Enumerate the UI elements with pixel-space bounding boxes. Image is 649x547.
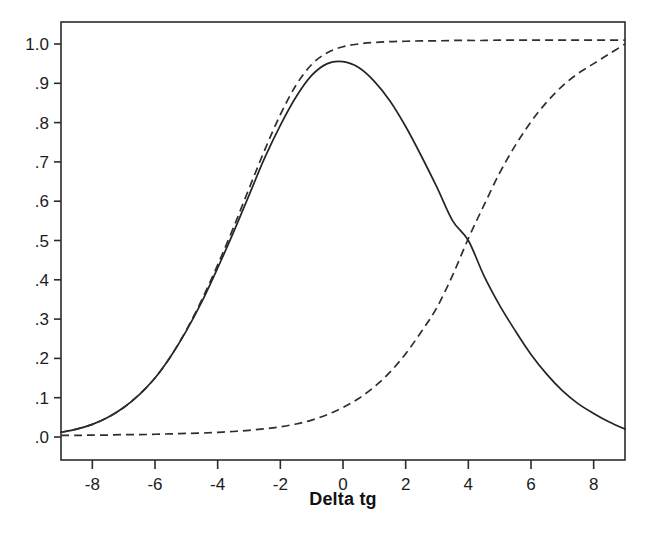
y-tick-label: .0 bbox=[35, 428, 49, 447]
plot-frame bbox=[61, 22, 625, 460]
chart-figure: 1.0.9.8.7.6.5.4.3.2.1.0 -8-6-4-202468 De… bbox=[0, 0, 649, 547]
y-tick-label: .8 bbox=[35, 114, 49, 133]
series-solid-bell-curve bbox=[61, 61, 625, 432]
data-series-group bbox=[61, 40, 625, 435]
x-tick-label: -6 bbox=[147, 475, 162, 494]
y-tick-label: .1 bbox=[35, 389, 49, 408]
x-axis-title: Delta tg bbox=[309, 489, 377, 509]
y-tick-label: .4 bbox=[35, 271, 49, 290]
x-tick-label: -4 bbox=[210, 475, 225, 494]
axis-ticks bbox=[54, 44, 594, 469]
y-tick-label: 1.0 bbox=[25, 35, 49, 54]
series-dashed-rising-sigmoid-curve bbox=[61, 44, 625, 435]
y-tick-label: .5 bbox=[35, 232, 49, 251]
y-tick-label: .3 bbox=[35, 310, 49, 329]
y-tick-label: .9 bbox=[35, 74, 49, 93]
x-tick-label: 2 bbox=[401, 475, 410, 494]
y-tick-label: .6 bbox=[35, 192, 49, 211]
x-tick-label: -2 bbox=[273, 475, 288, 494]
series-dashed-upper-plateau-curve bbox=[61, 40, 625, 432]
x-tick-label: -8 bbox=[85, 475, 100, 494]
x-tick-label: 4 bbox=[464, 475, 473, 494]
x-tick-label: 8 bbox=[589, 475, 598, 494]
y-tick-label: .2 bbox=[35, 349, 49, 368]
x-tick-label: 6 bbox=[526, 475, 535, 494]
chart-canvas: 1.0.9.8.7.6.5.4.3.2.1.0 -8-6-4-202468 De… bbox=[0, 0, 649, 547]
y-tick-label: .7 bbox=[35, 153, 49, 172]
y-axis-tick-labels: 1.0.9.8.7.6.5.4.3.2.1.0 bbox=[25, 35, 49, 447]
